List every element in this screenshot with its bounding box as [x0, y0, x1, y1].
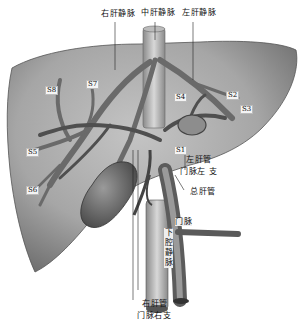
- label-common-hepatic-duct: 总肝管: [190, 188, 216, 196]
- splenic-branch: [178, 232, 238, 234]
- ivc-upper: [143, 28, 165, 128]
- segment-label-s7: S7: [86, 80, 99, 89]
- label-left-hepatic-duct: 左肝管: [186, 156, 212, 164]
- segment-label-s4: S4: [174, 93, 187, 102]
- segment-label-s6: S6: [26, 186, 39, 195]
- label-left-portal-branch: 门脉左 支: [180, 168, 217, 176]
- label-right-portal-branch: 门脉右支: [137, 312, 171, 320]
- segment-label-s5: S5: [26, 148, 39, 157]
- segment-label-s3: S3: [240, 105, 253, 114]
- segment-label-s1: S1: [174, 146, 187, 155]
- segment-label-s2: S2: [226, 91, 239, 100]
- segment-label-s8: S8: [45, 86, 58, 95]
- label-right-hepatic-vein: 右肝静脉: [101, 10, 135, 18]
- label-portal-vein: 门脉: [175, 218, 192, 226]
- left-lobe-duct-loop: [178, 115, 206, 135]
- label-right-hepatic-duct: 右肝管: [142, 300, 168, 308]
- liver-illustration: [0, 0, 306, 328]
- label-left-hepatic-vein: 左肝静脉: [182, 9, 216, 17]
- label-middle-hepatic-vein: 中肝静脉: [141, 9, 175, 17]
- label-inferior-vena-cava: 下腔静脉: [164, 228, 173, 268]
- liver-anatomy-figure: 右肝静脉 中肝静脉 左肝静脉 左肝管 门脉左 支 总肝管 门脉 下腔静脉 右肝管…: [0, 0, 306, 328]
